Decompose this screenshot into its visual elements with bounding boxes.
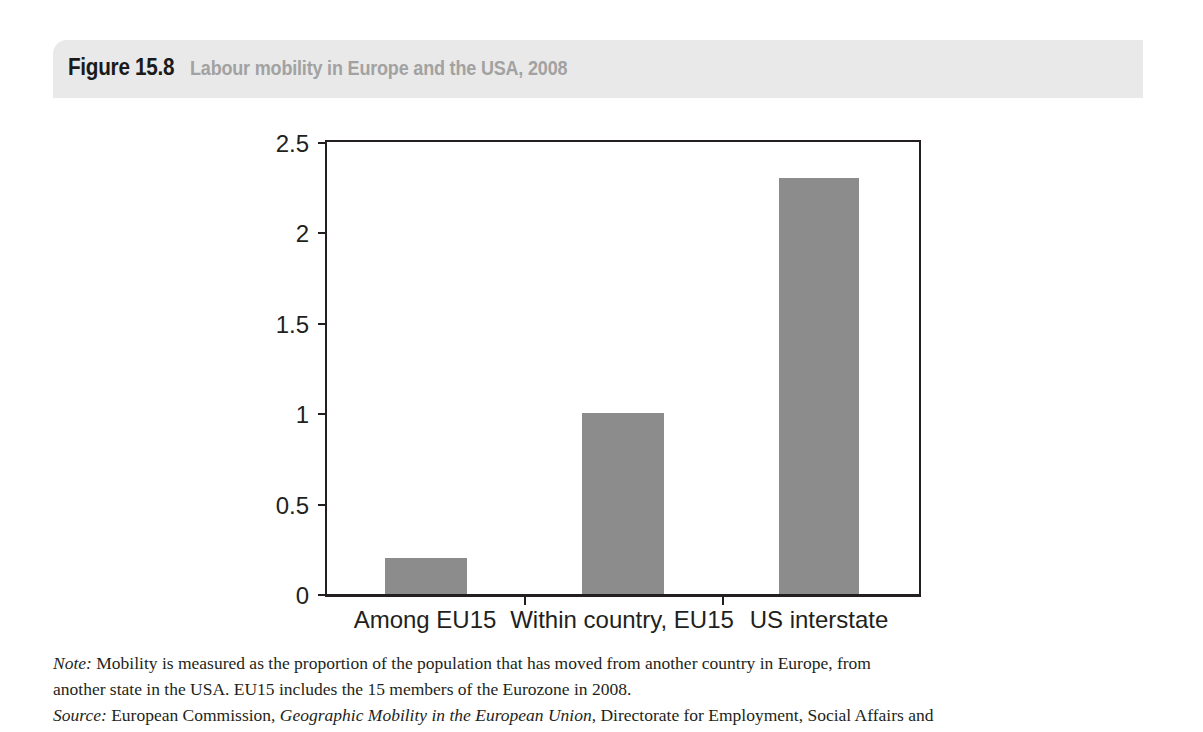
y-tick-1-5: 1.5 — [318, 323, 327, 325]
note-text-1: Mobility is measured as the proportion o… — [92, 653, 871, 673]
source-title: Geographic Mobility in the European Unio… — [280, 705, 592, 725]
y-tick-label-2: 2 — [296, 220, 309, 248]
y-tick-0-5: 0.5 — [318, 504, 327, 506]
y-tick-0: 0 — [318, 594, 327, 596]
x-label-us-interstate: US interstate — [750, 606, 889, 634]
note-line-2: another state in the USA. EU15 includes … — [53, 676, 1173, 702]
source-line: Source: European Commission, Geographic … — [53, 702, 1173, 728]
source-post-text: , Directorate for Employment, Social Aff… — [592, 705, 934, 725]
bar-us-interstate — [779, 178, 859, 594]
y-tick-1: 1 — [318, 413, 327, 415]
note-line-1: Note: Mobility is measured as the propor… — [53, 650, 1173, 676]
y-tick-label-1-5: 1.5 — [276, 311, 309, 339]
figure-number: Figure 15.8 — [68, 54, 174, 81]
y-tick-label-1: 1 — [296, 401, 309, 429]
bar-among-eu15 — [385, 558, 467, 594]
y-tick-label-0-5: 0.5 — [276, 492, 309, 520]
plot-inner: 0 0.5 1 1.5 2 2.5 — [327, 142, 919, 594]
y-tick-label-0: 0 — [296, 582, 309, 610]
x-tick-divider-1 — [524, 594, 526, 605]
figure-caption: Labour mobility in Europe and the USA, 2… — [190, 57, 567, 80]
x-label-among-eu15: Among EU15 — [354, 606, 497, 634]
chart-plot-area: 0 0.5 1 1.5 2 2.5 Among EU15 Within coun… — [53, 98, 1143, 650]
figure-notes: Note: Mobility is measured as the propor… — [53, 650, 1173, 728]
source-label: Source: — [53, 705, 107, 725]
y-tick-2-5: 2.5 — [318, 142, 327, 144]
y-tick-label-2-5: 2.5 — [276, 130, 309, 158]
note-label: Note: — [53, 653, 92, 673]
figure-header-bar: Figure 15.8Labour mobility in Europe and… — [53, 40, 1143, 98]
y-tick-2: 2 — [318, 232, 327, 234]
bar-within-country-eu15 — [582, 413, 664, 594]
figure-title-row: Figure 15.8Labour mobility in Europe and… — [68, 54, 609, 81]
source-pre-text: European Commission, — [107, 705, 280, 725]
axes-frame: 0 0.5 1 1.5 2 2.5 — [325, 140, 921, 597]
x-tick-divider-2 — [722, 594, 724, 605]
figure-block: Figure 15.8Labour mobility in Europe and… — [53, 40, 1143, 732]
note-text-2: another state in the USA. EU15 includes … — [53, 679, 631, 699]
x-label-within-country-eu15: Within country, EU15 — [510, 606, 734, 634]
